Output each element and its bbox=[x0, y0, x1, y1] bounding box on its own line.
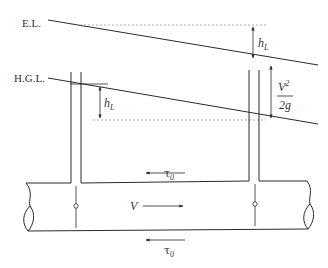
tau-subscript: 0 bbox=[170, 250, 174, 259]
tau-subscript: 0 bbox=[170, 173, 174, 182]
pipe-left-break bbox=[24, 183, 31, 231]
bottom-shear-label: τ0 bbox=[164, 244, 174, 259]
pipe-right-break bbox=[304, 181, 311, 229]
pipe-right-break-inner bbox=[308, 204, 314, 229]
energy-line bbox=[48, 20, 318, 65]
hgl-label: H.G.L. bbox=[14, 72, 45, 84]
pipe-left-break-inner bbox=[28, 206, 34, 231]
head-loss-subscript: L bbox=[263, 43, 269, 52]
velocity-head-numerator: V2 bbox=[278, 79, 289, 94]
pipe-bottom-wall bbox=[28, 229, 308, 231]
left-section-point bbox=[74, 204, 78, 208]
velocity-label: V bbox=[130, 199, 139, 213]
head-loss-label-hgl: hL bbox=[104, 96, 115, 112]
energy-line-label: E.L. bbox=[22, 17, 41, 29]
top-shear-label: τ0 bbox=[164, 167, 174, 182]
pipe-top-wall bbox=[26, 181, 307, 183]
right-section-point bbox=[253, 202, 257, 206]
velocity-head-exponent: 2 bbox=[285, 79, 289, 88]
head-loss-label-el: hL bbox=[258, 36, 269, 52]
head-loss-subscript: L bbox=[109, 103, 115, 112]
pipe-flow-diagram: E.L. H.G.L. hL hL V2 2g τ0 V bbox=[0, 0, 328, 268]
velocity-head-denominator: 2g bbox=[279, 98, 291, 112]
